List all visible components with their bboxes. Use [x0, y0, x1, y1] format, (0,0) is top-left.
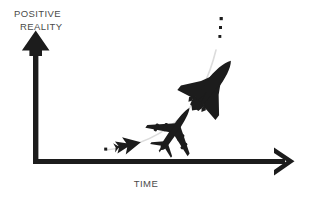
dot-marker-2: [219, 26, 222, 29]
jet-icon: [112, 134, 142, 157]
dot-marker-3: [220, 17, 223, 20]
up-arrow-icon: [22, 31, 50, 57]
dot-marker-start: [104, 148, 107, 151]
trajectory-dots-group: [218, 17, 222, 38]
dot-marker-1: [218, 35, 221, 38]
chart-svg: POSITIVE REALITY TIME: [0, 0, 310, 197]
x-axis-line: [33, 159, 285, 164]
y-axis-label-line1: POSITIVE: [14, 8, 61, 19]
axes-group: POSITIVE REALITY TIME: [14, 8, 295, 189]
y-axis-line: [33, 47, 38, 164]
y-axis-label-line2: REALITY: [20, 21, 63, 32]
figure-canvas: POSITIVE REALITY TIME: [0, 0, 310, 197]
x-axis-label: TIME: [134, 178, 158, 189]
